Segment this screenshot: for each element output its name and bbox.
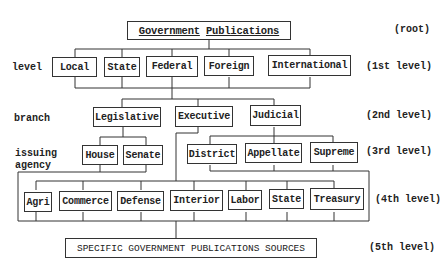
- node-specific-sources: SPECIFIC GOVERNMENT PUBLICATIONS SOURCES: [65, 238, 317, 258]
- node-senate: Senate: [123, 145, 163, 165]
- node-commerce: Commerce: [59, 191, 112, 211]
- node-federal: Federal: [146, 56, 198, 77]
- side-label-issuing-agency: issuing agency: [15, 148, 57, 172]
- node-state-level4: State: [269, 189, 304, 209]
- node-agri: Agri: [24, 192, 52, 212]
- root-node-government-publications: Government Publications: [127, 21, 291, 40]
- level-label-fifth: (5th level): [369, 242, 435, 253]
- node-house: House: [82, 145, 118, 165]
- node-treasury: Treasury: [310, 188, 364, 210]
- node-interior: Interior: [170, 190, 223, 211]
- node-international: International: [268, 55, 351, 76]
- node-foreign: Foreign: [204, 56, 254, 76]
- node-local: Local: [52, 57, 97, 77]
- node-legislative: Legislative: [93, 107, 161, 127]
- node-defense: Defense: [117, 191, 164, 211]
- side-label-issuing: issuing: [15, 148, 57, 160]
- node-state-level1: State: [104, 57, 140, 77]
- node-appellate: Appellate: [245, 143, 302, 163]
- node-supreme: Supreme: [310, 142, 358, 163]
- side-label-agency: agency: [15, 160, 57, 172]
- level-label-second: (2nd level): [366, 110, 432, 121]
- side-label-level: level: [12, 62, 42, 74]
- level-label-first: (1st level): [366, 61, 432, 72]
- level-label-third: (3rd level): [366, 146, 432, 157]
- level-label-fourth: (4th level): [375, 194, 441, 205]
- root-word-publications: Publications: [206, 25, 279, 37]
- node-labor: Labor: [228, 190, 262, 210]
- side-label-branch: branch: [14, 113, 50, 125]
- level-label-root: (root): [394, 24, 430, 35]
- root-word-government: Government: [139, 25, 200, 37]
- connector-lines: [0, 0, 446, 270]
- node-district: District: [187, 144, 237, 164]
- node-executive: Executive: [175, 106, 233, 127]
- node-judicial: Judicial: [250, 105, 301, 126]
